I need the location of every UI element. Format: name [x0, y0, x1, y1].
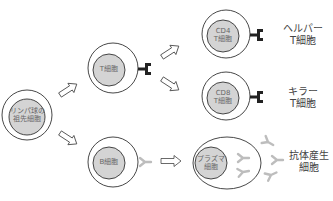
arrow-t-to-cd4: [159, 41, 182, 61]
progenitor-label: リンパ球の 祖先細胞: [7, 107, 47, 123]
label-line: CD4: [207, 27, 239, 35]
b-cell-label: B細胞: [93, 158, 125, 166]
label-line: プラズマ: [194, 155, 228, 163]
label-line: ヘルパー: [278, 23, 328, 35]
plasma-label: プラズマ 細胞: [194, 155, 228, 171]
t-cell-label: T細胞: [93, 65, 125, 73]
antibody-icon: [265, 169, 278, 181]
label-line: T細胞: [207, 97, 239, 105]
label-line: T細胞: [93, 65, 125, 73]
label-line: リンパ球の: [7, 107, 47, 115]
label-line: CD8: [207, 89, 239, 97]
b-cell-antibody-icon: [140, 158, 151, 166]
killer-t-label: キラー T細胞: [278, 86, 328, 109]
arrow-progenitor-to-b: [57, 128, 80, 148]
label-line: 細胞: [285, 162, 333, 174]
label-line: T細胞: [207, 35, 239, 43]
antibody-icon: [262, 136, 276, 148]
label-line: T細胞: [278, 98, 328, 110]
label-line: 祖先細胞: [7, 115, 47, 123]
cd4-receptor-icon: [250, 29, 263, 41]
cd4-label: CD4 T細胞: [207, 27, 239, 43]
label-line: T細胞: [278, 35, 328, 47]
arrow-b-to-plasma: [161, 156, 181, 167]
label-line: B細胞: [93, 158, 125, 166]
antibody-icon: [272, 156, 283, 164]
t-cell-receptor-icon: [138, 63, 151, 75]
arrow-t-to-cd8: [159, 74, 182, 94]
cd8-receptor-icon: [250, 91, 263, 103]
cd8-label: CD8 T細胞: [207, 89, 239, 105]
helper-t-label: ヘルパー T細胞: [278, 23, 328, 46]
label-line: 抗体産生: [285, 150, 333, 162]
antibody-producing-label: 抗体産生 細胞: [285, 150, 333, 173]
arrow-progenitor-to-t: [57, 79, 80, 99]
label-line: 細胞: [194, 163, 228, 171]
label-line: キラー: [278, 86, 328, 98]
